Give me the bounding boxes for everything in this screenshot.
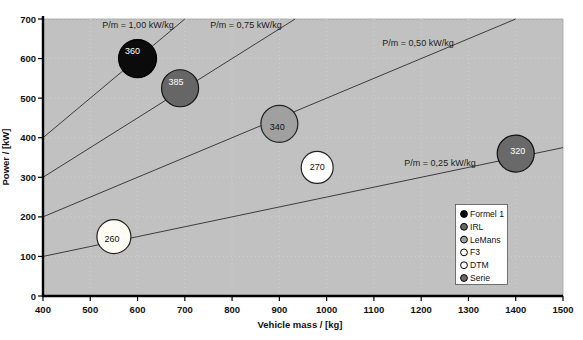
- y-tick-label: 200: [20, 211, 36, 222]
- y-tick-label: 400: [20, 132, 36, 143]
- bubble-circle: [162, 70, 199, 107]
- y-tick-label: 0: [31, 291, 36, 302]
- bubble-f3: 260: [97, 220, 131, 254]
- y-tick-label: 600: [20, 53, 36, 64]
- legend-marker-serie: [461, 275, 468, 282]
- bubble-value-label: 340: [270, 122, 285, 132]
- x-tick-label: 1100: [364, 304, 385, 315]
- bubble-value-label: 385: [169, 77, 184, 87]
- x-tick-label: 500: [82, 304, 98, 315]
- bubble-dtm: 270: [301, 151, 333, 183]
- legend-label-irl: IRL: [470, 222, 484, 232]
- pm-line-label: P/m = 1,00 kW/kg: [102, 20, 173, 30]
- legend-label-formel-1: Formel 1: [470, 209, 504, 219]
- legend-label-f3: F3: [470, 247, 480, 257]
- x-tick-label: 1000: [316, 304, 337, 315]
- x-tick-label: 600: [130, 304, 146, 315]
- bubble-chart-figure: P/m = 1,00 kW/kgP/m = 0,75 kW/kgP/m = 0,…: [0, 0, 583, 340]
- bubble-formel-1: 360: [119, 40, 157, 78]
- legend-marker-lemans: [461, 236, 468, 243]
- y-tick-label: 500: [20, 93, 36, 104]
- y-tick-label: 300: [20, 172, 36, 183]
- legend-marker-f3: [461, 249, 468, 256]
- bubble-serie: 320: [497, 135, 534, 172]
- x-tick-label: 1400: [505, 304, 526, 315]
- bubble-value-label: 320: [510, 146, 525, 156]
- x-tick-label: 700: [177, 304, 193, 315]
- pm-line-label: P/m = 0,75 kW/kg: [210, 20, 281, 30]
- x-tick-label: 1500: [552, 304, 573, 315]
- pm-line-label: P/m = 0,50 kW/kg: [382, 38, 453, 48]
- x-tick-label: 1300: [458, 304, 479, 315]
- legend-marker-dtm: [461, 262, 468, 269]
- legend-label-dtm: DTM: [470, 260, 489, 270]
- pm-line-label: P/m = 0,25 kW/kg: [404, 158, 475, 168]
- y-tick-label: 100: [20, 251, 36, 262]
- bubble-value-label: 270: [310, 162, 325, 172]
- legend-marker-formel-1: [461, 211, 468, 218]
- legend-label-serie: Serie: [470, 273, 490, 283]
- bubble-value-label: 360: [125, 46, 140, 56]
- y-axis-title: Power / [kW]: [0, 128, 11, 185]
- x-tick-label: 1200: [411, 304, 432, 315]
- legend-marker-irl: [461, 223, 468, 230]
- y-tick-label: 700: [20, 14, 36, 25]
- legend: Formel 1IRLLeMansF3DTMSerie: [456, 205, 508, 285]
- bubble-value-label: 260: [104, 234, 119, 244]
- legend-label-lemans: LeMans: [470, 235, 501, 245]
- bubble-lemans: 340: [261, 105, 298, 142]
- bubble-irl: 385: [162, 70, 199, 107]
- x-tick-label: 400: [35, 304, 51, 315]
- x-axis-title: Vehicle mass / [kg]: [257, 319, 342, 330]
- x-tick-label: 800: [224, 304, 240, 315]
- power-vs-mass-bubble-chart: P/m = 1,00 kW/kgP/m = 0,75 kW/kgP/m = 0,…: [0, 0, 583, 340]
- x-tick-label: 900: [271, 304, 287, 315]
